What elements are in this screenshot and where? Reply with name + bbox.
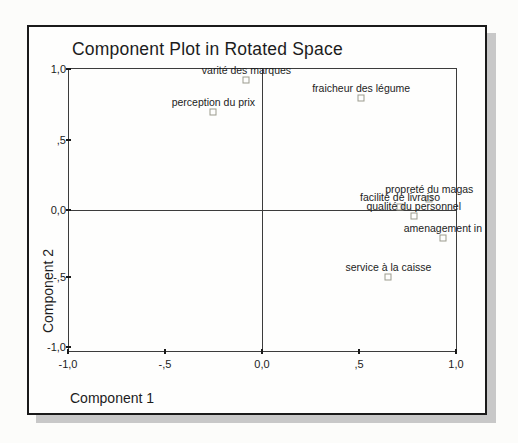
x-tick-label: 0,0 [242, 358, 282, 370]
y-tick-label: 1,0 [28, 63, 66, 75]
point-label: service à la caisse [346, 261, 432, 272]
y-tick-mark [66, 139, 71, 141]
point-label: qualité du personnel [366, 200, 461, 211]
spss-chart-screenshot: Component Plot in Rotated Space -1,0-,50… [0, 0, 518, 443]
y-tick-mark [66, 276, 71, 278]
y-axis-title: Component 2 [40, 231, 56, 351]
point-label: varité des marques [202, 64, 291, 75]
point-marker [439, 235, 446, 242]
point-marker [410, 212, 417, 219]
y-tick-label: 0,0 [28, 204, 66, 216]
x-tick-label: 1,0 [436, 358, 476, 370]
x-tick-mark [67, 349, 69, 354]
x-tick-mark [358, 349, 360, 354]
point-marker [385, 273, 392, 280]
y-tick-mark [66, 68, 71, 70]
y-tick-mark [66, 346, 71, 348]
x-axis-title: Component 1 [70, 390, 154, 406]
x-tick-mark [455, 349, 457, 354]
x-tick-mark [261, 349, 263, 354]
x-tick-label: ,5 [339, 358, 379, 370]
chart-title: Component Plot in Rotated Space [72, 39, 343, 60]
point-marker [210, 109, 217, 116]
point-marker [243, 76, 250, 83]
x-tick-label: -,5 [145, 358, 185, 370]
y-tick-label: ,5 [28, 134, 66, 146]
x-tick-mark [164, 349, 166, 354]
point-marker [358, 95, 365, 102]
x-tick-label: -1,0 [48, 358, 88, 370]
y-tick-mark [66, 209, 71, 211]
point-label: perception du prix [172, 97, 255, 108]
point-label: fraicheur des légume [312, 83, 410, 94]
point-label: amenagement in [404, 223, 482, 234]
